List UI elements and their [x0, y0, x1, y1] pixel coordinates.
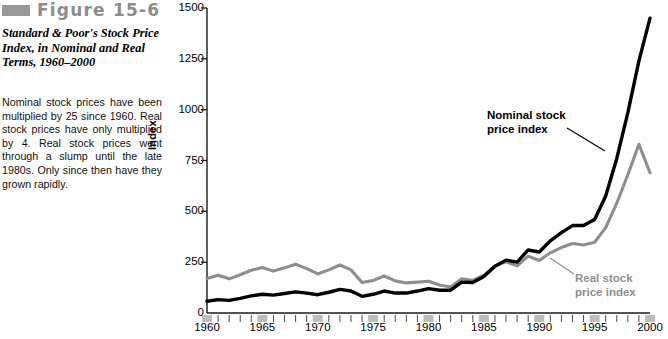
- real-series-label: Real stock price index: [575, 272, 636, 299]
- axis-lines: [207, 8, 650, 313]
- figure-swatch-icon: [2, 5, 30, 16]
- real-label-line1: Real stock: [575, 272, 633, 284]
- nominal-stock-price-line: [207, 18, 650, 301]
- nominal-label-line1: Nominal stock: [487, 109, 566, 121]
- figure-number-label: Figure 15-6: [37, 2, 160, 19]
- x-axis-period-band: [202, 315, 212, 322]
- nominal-label-leader-line: [567, 128, 605, 151]
- real-label-line2: price index: [575, 286, 636, 298]
- figure-title: Standard & Poor's Stock Price Index, in …: [2, 26, 162, 70]
- x-axis-period-band: [590, 315, 600, 322]
- y-axis-tick-marks: [201, 8, 207, 262]
- x-axis-period-band: [534, 315, 544, 322]
- x-axis-period-band: [424, 315, 434, 322]
- figure-description: Nominal stock prices have been multiplie…: [2, 96, 162, 191]
- nominal-label-line2: price index: [487, 123, 548, 135]
- real-label-leader-line: [550, 258, 574, 274]
- chart-area: Index 1500 1250 1000 750 500 250 0 1960 …: [150, 0, 657, 339]
- caption-column: Figure 15-6 Standard & Poor's Stock Pric…: [0, 0, 170, 339]
- x-axis-period-band: [645, 315, 655, 322]
- x-axis-tick-bands: [202, 315, 655, 322]
- x-axis-period-band: [368, 315, 378, 322]
- figure-header: Figure 15-6: [2, 2, 160, 19]
- x-axis-period-band: [479, 315, 489, 322]
- nominal-series-label: Nominal stock price index: [487, 109, 566, 136]
- x-axis-period-band: [313, 315, 323, 322]
- x-axis-period-band: [257, 315, 267, 322]
- real-stock-price-line: [207, 144, 650, 287]
